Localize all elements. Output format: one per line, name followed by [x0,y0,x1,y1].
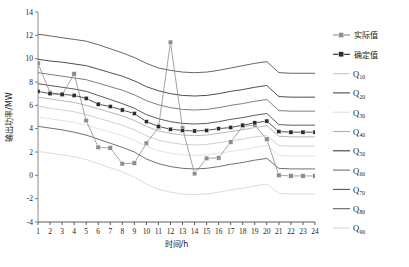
y-tick-label: -2 [27,194,33,203]
x-tick-label: 8 [120,227,124,236]
data-point-marker [132,161,137,166]
series-line-Q50 [38,59,315,97]
x-tick-label: 3 [60,227,64,236]
data-point-marker [120,161,125,166]
legend-label: Q [353,204,359,214]
legend-marker [339,32,344,37]
data-point-marker [265,119,269,123]
chart-canvas: -4-2024681012141234567891011121314151617… [0,0,409,267]
data-point-marker [289,130,293,134]
data-point-marker [229,125,233,129]
legend-label: 实际值 [354,30,378,40]
x-tick-label: 22 [287,227,295,236]
data-point-marker [277,129,281,133]
legend-label-sub: 70 [360,190,366,196]
data-point-marker [168,127,172,131]
x-tick-label: 2 [48,227,52,236]
x-tick-label: 5 [84,227,88,236]
data-point-marker [96,145,101,150]
x-tick-label: 14 [191,227,199,236]
data-point-marker [96,102,100,106]
y-tick-label: 10 [26,54,34,63]
legend-label-sub: 10 [360,74,366,80]
series-line-Q40 [38,97,315,137]
legend-label-sub: 80 [360,209,366,215]
y-tick-label: 8 [29,78,33,87]
x-tick-label: 17 [227,227,235,236]
data-point-marker [228,140,233,145]
legend-label-sub: 40 [360,132,366,138]
series-line-Q70 [38,34,315,73]
x-tick-label: 18 [239,227,247,236]
data-point-marker [48,92,52,96]
data-point-marker [120,108,124,112]
x-tick-label: 21 [275,227,283,236]
data-point-marker [313,130,317,134]
legend-label: Q [353,88,359,98]
x-tick-label: 23 [299,227,307,236]
data-point-marker [265,137,270,142]
legend-label: 确定值 [354,50,378,60]
data-point-marker [180,128,184,132]
legend-label: Q [353,166,359,176]
y-tick-label: -4 [27,218,33,227]
x-tick-label: 12 [167,227,175,236]
x-tick-label: 19 [251,227,259,236]
legend-label: Q [353,69,359,79]
data-point-marker [168,40,173,45]
legend-label: Q [353,108,359,118]
chart-figure: -4-2024681012141234567891011121314151617… [0,0,409,267]
x-tick-label: 16 [215,227,223,236]
y-tick-label: 14 [26,8,34,17]
x-tick-label: 4 [72,227,76,236]
data-point-marker [204,156,209,161]
y-tick-label: 0 [29,171,33,180]
x-tick-label: 10 [143,227,151,236]
legend-label-sub: 90 [360,229,366,235]
data-point-marker [72,93,76,97]
series-line-Q80 [38,126,315,169]
data-point-marker [313,174,318,179]
legend-label-sub: 20 [360,94,366,100]
x-tick-label: 11 [155,227,162,236]
data-point-marker [84,96,88,100]
data-point-marker [192,129,196,133]
data-point-marker [60,92,64,96]
y-tick-label: 6 [29,101,33,110]
data-point-marker [289,174,294,179]
series-line-Q10 [38,106,315,146]
x-tick-label: 7 [108,227,112,236]
series-line-确定值 [38,91,315,132]
data-point-marker [72,72,77,77]
legend-label: Q [353,185,359,195]
x-tick-label: 9 [132,227,136,236]
data-point-marker [216,156,221,161]
data-point-marker [241,123,245,127]
y-tick-label: 12 [26,31,34,40]
x-tick-label: 6 [96,227,100,236]
data-point-marker [108,146,113,151]
data-point-marker [132,111,136,115]
y-tick-label: 2 [29,148,33,157]
legend-label: Q [353,223,359,233]
data-point-marker [144,120,148,124]
x-tick-label: 20 [263,227,271,236]
data-point-marker [301,174,306,179]
legend-label-sub: 60 [360,171,366,177]
data-point-marker [192,171,197,176]
y-tick-label: 4 [29,124,33,133]
data-point-marker [217,127,221,131]
data-point-marker [108,104,112,108]
legend-label: Q [353,127,359,137]
legend-marker [339,52,344,57]
x-tick-label: 24 [311,227,319,236]
data-point-marker [36,61,41,66]
x-tick-label: 13 [179,227,187,236]
data-point-marker [253,121,257,125]
legend-label-sub: 50 [360,151,366,157]
series-line-实际值 [38,42,315,176]
series-line-Q20 [38,84,315,125]
data-point-marker [205,128,209,132]
legend-label: Q [353,146,359,156]
x-tick-label: 15 [203,227,211,236]
